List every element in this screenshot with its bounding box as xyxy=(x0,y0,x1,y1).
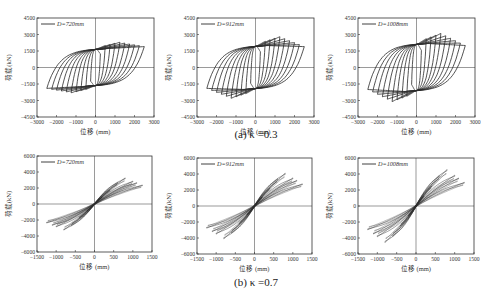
x-tick-label: 0 xyxy=(254,119,257,125)
x-tick-label: 1500 xyxy=(146,254,157,260)
y-tick-label: −3000 xyxy=(181,98,196,104)
caption-kappa-0-3: (a) κ =0.3 xyxy=(196,128,316,140)
y-tick-label: 4000 xyxy=(24,169,35,175)
y-tick-label: −6000 xyxy=(181,251,196,257)
y-tick-label: −2000 xyxy=(342,219,357,225)
y-tick-label: 0 xyxy=(353,65,356,71)
legend-label: D=912mm xyxy=(216,20,244,27)
y-tick-label: −2000 xyxy=(181,219,196,225)
x-tick-label: 0 xyxy=(94,119,97,125)
y-tick-label: 0 xyxy=(32,201,35,207)
y-tick-label: −3000 xyxy=(342,98,357,104)
y-tick-label: 0 xyxy=(192,65,195,71)
y-tick-label: 4500 xyxy=(24,15,35,21)
x-tick-label: 3000 xyxy=(469,119,480,125)
x-tick-label: −1000 xyxy=(69,119,84,125)
y-tick-label: 1500 xyxy=(184,48,195,54)
hysteresis-figure: −3000−2000−10000100020003000−4500−3000−1… xyxy=(0,0,492,296)
x-tick-label: −2000 xyxy=(209,119,224,125)
x-tick-label: 3000 xyxy=(148,119,159,125)
y-tick-label: −2000 xyxy=(21,217,36,223)
y-tick-label: 2000 xyxy=(184,187,195,193)
y-tick-label: 3000 xyxy=(184,32,195,38)
x-tick-label: 0 xyxy=(93,254,96,260)
legend-label: D=720mm xyxy=(56,158,84,165)
x-tick-label: 2000 xyxy=(450,119,461,125)
x-tick-label: −1000 xyxy=(49,254,64,260)
y-tick-label: −4500 xyxy=(342,114,357,120)
x-tick-label: 1000 xyxy=(269,119,280,125)
x-tick-label: 1000 xyxy=(449,256,460,262)
y-tick-label: 4000 xyxy=(184,171,195,177)
x-tick-label: 0 xyxy=(415,256,418,262)
y-axis-label: 荷载(kN) xyxy=(4,54,13,80)
x-tick-label: 1000 xyxy=(127,254,138,260)
y-tick-label: 1500 xyxy=(24,48,35,54)
y-tick-label: 3000 xyxy=(24,32,35,38)
y-tick-label: 1500 xyxy=(345,48,356,54)
y-tick-label: 4000 xyxy=(345,171,356,177)
y-tick-label: 4500 xyxy=(184,15,195,21)
legend-label: D=1008mm xyxy=(377,20,408,27)
y-tick-label: 2000 xyxy=(345,187,356,193)
x-tick-label: 1500 xyxy=(306,256,317,262)
x-axis-label: 位移 (mm) xyxy=(80,127,110,136)
x-tick-label: 0 xyxy=(253,256,256,262)
x-axis-label: 位移 (mm) xyxy=(401,127,431,136)
y-tick-label: 0 xyxy=(32,65,35,71)
chart-panel-b3: −1500−1000−500050010001500−6000−4000−200… xyxy=(325,155,480,273)
chart-panel-b1: −1500−1000−500050010001500−6000−4000−200… xyxy=(4,153,158,271)
x-tick-label: 500 xyxy=(431,256,440,262)
y-tick-label: −1500 xyxy=(342,81,357,87)
x-tick-label: 1000 xyxy=(430,119,441,125)
x-tick-label: 3000 xyxy=(308,119,319,125)
legend-label: D=720mm xyxy=(56,20,84,27)
chart-panel-a3: −3000−2000−10000100020003000−4500−3000−1… xyxy=(325,15,481,136)
y-tick-label: −4500 xyxy=(181,114,196,120)
y-axis-label: 荷载(kN) xyxy=(4,191,13,217)
y-tick-label: 0 xyxy=(192,203,195,209)
y-tick-label: −4500 xyxy=(21,114,36,120)
y-tick-label: 2000 xyxy=(24,185,35,191)
y-tick-label: −6000 xyxy=(342,251,357,257)
y-tick-label: 6000 xyxy=(24,153,35,159)
x-tick-label: 2000 xyxy=(129,119,140,125)
chart-panel-a2: −3000−2000−10000100020003000−4500−3000−1… xyxy=(164,15,320,136)
x-tick-label: 1000 xyxy=(109,119,120,125)
y-axis-label: 荷载(kN) xyxy=(325,193,334,219)
y-tick-label: −6000 xyxy=(21,249,36,255)
x-tick-label: −500 xyxy=(70,254,82,260)
y-tick-label: 3000 xyxy=(345,32,356,38)
y-tick-label: −4000 xyxy=(181,235,196,241)
y-axis-label: 荷载(kN) xyxy=(164,193,173,219)
y-tick-label: −1500 xyxy=(21,81,36,87)
y-axis-label: 荷载(kN) xyxy=(325,54,334,80)
x-axis-label: 位移 (mm) xyxy=(79,262,109,271)
legend-label: D=1008mm xyxy=(377,160,408,167)
x-tick-label: −1000 xyxy=(370,256,385,262)
x-tick-label: 1000 xyxy=(287,256,298,262)
y-tick-label: −4000 xyxy=(21,233,36,239)
y-tick-label: −1500 xyxy=(181,81,196,87)
caption-kappa-0-7: (b) κ =0.7 xyxy=(196,276,316,288)
x-tick-label: −1000 xyxy=(229,119,244,125)
chart-panel-a1: −3000−2000−10000100020003000−4500−3000−1… xyxy=(4,15,160,136)
x-tick-label: −500 xyxy=(391,256,403,262)
y-tick-label: 4500 xyxy=(345,15,356,21)
x-tick-label: 500 xyxy=(109,254,118,260)
x-tick-label: −1000 xyxy=(209,256,224,262)
x-tick-label: −1000 xyxy=(390,119,405,125)
y-tick-label: −3000 xyxy=(21,98,36,104)
x-tick-label: −2000 xyxy=(49,119,64,125)
x-tick-label: −500 xyxy=(230,256,242,262)
x-tick-label: 2000 xyxy=(289,119,300,125)
x-tick-label: 500 xyxy=(269,256,278,262)
chart-panel-b2: −1500−1000−500050010001500−6000−4000−200… xyxy=(164,155,318,273)
x-axis-label: 位移 (mm) xyxy=(401,264,431,273)
x-tick-label: −2000 xyxy=(370,119,385,125)
y-tick-label: 6000 xyxy=(184,155,195,161)
y-axis-label: 荷载(kN) xyxy=(164,54,173,80)
x-tick-label: 1500 xyxy=(468,256,479,262)
x-axis-label: 位移 (mm) xyxy=(239,264,269,273)
x-tick-label: 0 xyxy=(415,119,418,125)
